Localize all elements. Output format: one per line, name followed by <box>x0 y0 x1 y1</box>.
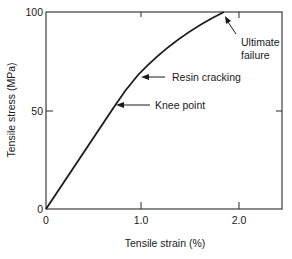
x-tick-label-0: 0 <box>43 214 49 226</box>
stress-strain-chart: 0 1.0 2.0 0 50 100 Tensile strain (%) Te… <box>0 0 292 259</box>
y-tick-label-100: 100 <box>25 6 43 18</box>
ultimate-failure-arrowhead <box>225 16 231 24</box>
ultimate-failure-label-line1: Ultimate <box>241 36 280 48</box>
x-axis-label: Tensile strain (%) <box>125 237 206 249</box>
x-tick-label-2: 2.0 <box>232 214 247 226</box>
ultimate-failure-arrow <box>228 22 236 34</box>
y-axis-label: Tensile stress (MPa) <box>5 62 17 157</box>
resin-cracking-label: Resin cracking <box>172 71 241 83</box>
knee-point-label: Knee point <box>155 99 205 111</box>
ultimate-failure-label-line2: failure <box>241 49 270 61</box>
y-tick-label-0: 0 <box>37 203 43 215</box>
x-tick-label-1: 1.0 <box>134 214 149 226</box>
resin-cracking-arrowhead <box>141 74 149 80</box>
y-tick-label-50: 50 <box>31 105 43 117</box>
